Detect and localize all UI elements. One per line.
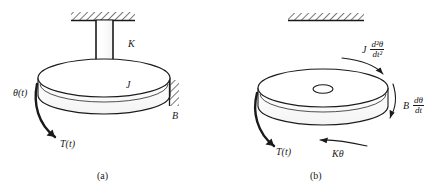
caption-panel-a: (a) (97, 170, 108, 181)
ceiling-support-a (71, 12, 135, 21)
panel-b: J d²θ dt² B dθ dt T(t) Kθ (b) (222, 0, 445, 196)
label-angle-theta: θ(t) (13, 87, 27, 98)
ceiling-support-b (288, 13, 364, 21)
label-torque-t: T(t) (60, 138, 75, 149)
figure-canvas: K J B θ(t) T(t) (a) (0, 0, 445, 196)
damping-coefficient: B (403, 100, 409, 111)
label-spring-torque-b: Kθ (332, 148, 344, 159)
damping-torque-arrow-b (390, 84, 396, 118)
label-stiffness-k: K (128, 38, 135, 49)
inertia-coefficient: J (362, 44, 366, 55)
inertia-denominator: dt² (370, 49, 384, 59)
panel-a: K J B θ(t) T(t) (a) (0, 0, 222, 196)
disk-a (38, 59, 170, 114)
panel-a-drawing (0, 0, 222, 196)
label-inertia-j: J (126, 79, 130, 90)
label-damping-term-b: B dθ dt (403, 96, 425, 116)
damping-fraction: dθ dt (412, 96, 425, 116)
label-inertia-term-b: J d²θ dt² (362, 40, 385, 60)
disk-center-hole-b (313, 85, 333, 93)
label-torque-t-b: T(t) (276, 146, 291, 157)
damping-numerator: dθ (412, 96, 425, 105)
spring-torque-arrow-b (320, 138, 367, 146)
caption-panel-b: (b) (310, 170, 322, 181)
inertia-fraction: d²θ dt² (369, 40, 385, 60)
wall-support-b-a (170, 80, 180, 106)
inertia-numerator: d²θ (369, 40, 385, 49)
damping-denominator: dt (413, 105, 424, 115)
label-damping-b: B (172, 110, 178, 121)
disk-b (258, 69, 388, 125)
